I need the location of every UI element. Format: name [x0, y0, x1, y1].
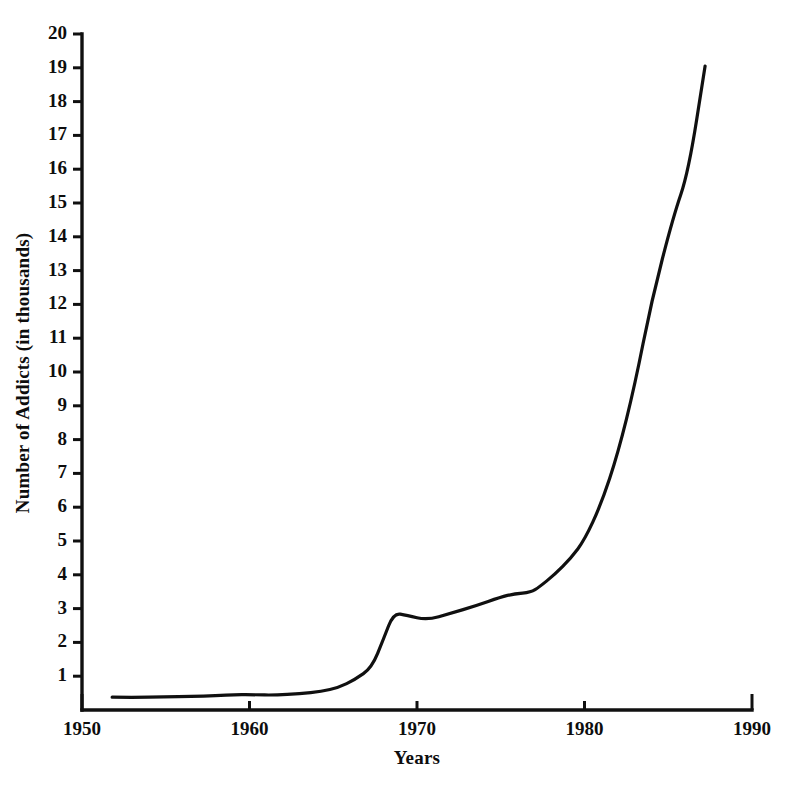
line-chart: Number of Addicts (in thousands) Years 1… — [0, 0, 790, 788]
data-series-line — [112, 66, 705, 697]
axis-lines — [82, 34, 752, 710]
plot-area — [0, 0, 790, 788]
